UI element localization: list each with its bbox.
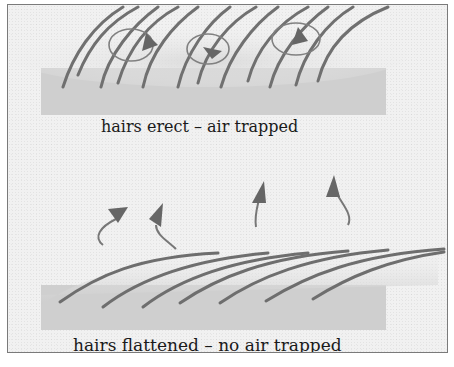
flattened-hairs-illustration <box>8 5 448 353</box>
diagram-frame: hairs erect – air trapped hairs flattene… <box>7 4 448 353</box>
caption-hairs-flattened: hairs flattened – no air trapped <box>73 335 342 353</box>
